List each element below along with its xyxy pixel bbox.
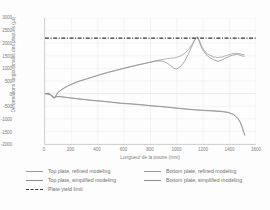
legend-item[interactable]: Bottom plate, refined modeling [144,168,262,174]
series-line-3 [45,94,245,136]
legend-row: Plate yield limit [26,186,262,192]
legend-item[interactable]: Bottom plate, simplified modeling [144,177,262,183]
x-axis-tick-label: 1000 [162,147,192,152]
series-line-1 [45,37,244,98]
legend-row: Top plate, simplified modelingBottom pla… [26,177,262,183]
x-axis-title: Longueur de la poutre (mm) [44,155,256,160]
legend-row: Top plate, refined modelingBottom plate,… [26,168,262,174]
legend-label: Plate yield limit [48,186,83,192]
series-line-0 [45,37,244,98]
x-axis-tick-label: 1200 [188,147,218,152]
legend-item[interactable]: Top plate, refined modeling [26,168,144,174]
x-axis-tick-label: 0 [29,147,59,152]
x-axis-tick-label: 200 [56,147,86,152]
legend-label: Top plate, simplified modeling [48,177,116,183]
x-axis-tick-label: 1600 [241,147,270,152]
legend-swatch-icon [26,171,43,172]
legend-item[interactable]: Plate yield limit [26,186,144,192]
x-axis-tick-label: 600 [109,147,139,152]
series-layer [45,18,256,144]
x-axis-tick-label: 400 [82,147,112,152]
x-axis-tick-label: 1400 [215,147,245,152]
series-line-2 [45,94,245,135]
plot-area [44,18,256,145]
y-axis-tick-label: -1500 [0,130,12,135]
legend-label: Bottom plate, simplified modeling [166,177,242,183]
legend-item[interactable]: Top plate, simplified modeling [26,177,144,183]
legend-swatch-icon [144,171,161,172]
chart-figure: 300025002000150010005000-500-1000-1500-2… [0,0,270,210]
x-axis-tick-label: 800 [135,147,165,152]
legend-label: Top plate, refined modeling [48,168,110,174]
y-axis-tick-label: -2000 [0,142,12,147]
legend-swatch-icon [144,180,161,181]
legend-swatch-icon [26,188,43,191]
legend-label: Bottom plate, refined modeling [166,168,236,174]
chart-legend: Top plate, refined modelingBottom plate,… [26,168,262,196]
y-axis-title: Déformations longitudinales des plaques … [11,0,16,130]
legend-swatch-icon [26,180,43,181]
